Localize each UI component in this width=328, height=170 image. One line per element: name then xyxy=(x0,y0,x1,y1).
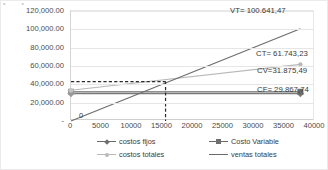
legend-label: Costo Variable xyxy=(231,137,279,146)
legend-key-icon xyxy=(97,138,116,145)
y-axis: 120,000.00100,000.0080,000.0060,000.0040… xyxy=(1,1,67,170)
origin-label: 0 xyxy=(79,111,83,120)
legend-label: costos totales xyxy=(119,150,164,159)
chart-frame: • • 120,000.00100,000.0080,000.0060,000.… xyxy=(0,0,328,170)
x-tick-label: 5000 xyxy=(92,121,109,130)
series-start-marker-2 xyxy=(69,88,74,93)
legend-key-marker xyxy=(105,153,109,157)
legend-key-icon xyxy=(97,151,116,158)
x-tick-label: 10000 xyxy=(120,121,141,130)
plot-area xyxy=(70,10,314,120)
cf-label: CF= 29.867,74 xyxy=(257,85,309,94)
x-tick-label: 25000 xyxy=(212,121,233,130)
x-tick-label: 0 xyxy=(68,121,72,130)
x-tick-label: 30000 xyxy=(242,121,263,130)
vt-label: VT= 100.641,47 xyxy=(230,6,286,15)
chart-legend: costos fijosCosto Variablecostos totales… xyxy=(97,137,297,163)
legend-item[interactable]: Costo Variable xyxy=(209,137,279,146)
y-tick-label: 100,000.00 xyxy=(26,24,64,33)
legend-key-line xyxy=(209,154,228,155)
legend-item[interactable]: ventas totales xyxy=(209,150,277,159)
legend-label: ventas totales xyxy=(231,150,277,159)
y-tick-label: 40,000.00 xyxy=(30,79,64,88)
y-tick-label: 120,000.00 xyxy=(26,6,64,15)
x-tick-label: 40000 xyxy=(303,121,324,130)
x-tick-label: 35000 xyxy=(273,121,294,130)
y-tick-label: 60,000.00 xyxy=(30,61,64,70)
y-tick-label: 80,000.00 xyxy=(30,42,64,51)
y-tick-label: 20,000.00 xyxy=(30,97,64,106)
x-tick-label: 20000 xyxy=(181,121,202,130)
legend-key-marker xyxy=(216,139,221,144)
gridline xyxy=(71,103,313,104)
legend-key-icon xyxy=(209,138,228,145)
legend-key-marker xyxy=(104,139,110,145)
legend-item[interactable]: costos totales xyxy=(97,150,164,159)
x-axis: 0500010000150002000025000300003500040000 xyxy=(1,121,328,133)
legend-item[interactable]: costos fijos xyxy=(97,137,156,146)
legend-key-icon xyxy=(209,151,228,158)
cv-label: CV=31.875,49 xyxy=(257,66,307,75)
legend-label: costos fijos xyxy=(119,137,156,146)
ct-label: CT= 61.743,23 xyxy=(256,49,308,58)
x-tick-label: 15000 xyxy=(151,121,172,130)
gridline xyxy=(71,29,313,30)
